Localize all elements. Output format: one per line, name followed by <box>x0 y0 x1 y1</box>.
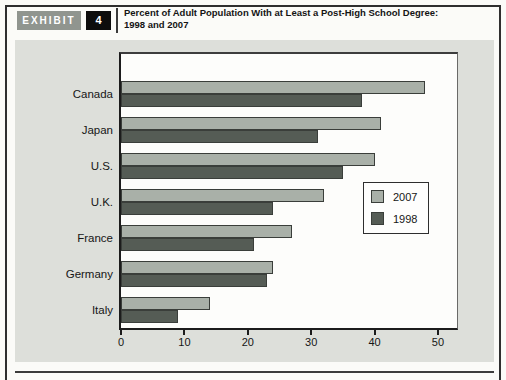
page-frame-right <box>499 5 501 380</box>
legend-swatch-1998 <box>371 212 384 225</box>
legend-label-2007: 2007 <box>393 190 417 204</box>
chart-panel: CanadaJapanU.S.U.K.FranceGermanyItaly 01… <box>15 40 494 362</box>
bar-1998-us <box>121 166 343 179</box>
x-tick-label-30: 30 <box>296 336 326 348</box>
bar-2007-italy <box>121 297 210 310</box>
category-label-italy: Italy <box>21 302 113 318</box>
bar-2007-japan <box>121 117 381 130</box>
legend: 2007 1998 <box>363 182 429 234</box>
page-frame-left <box>5 5 7 380</box>
x-tick-50 <box>437 330 439 335</box>
category-label-canada: Canada <box>21 86 113 102</box>
legend-swatch-2007 <box>371 190 384 203</box>
x-tick-label-20: 20 <box>233 336 263 348</box>
exhibit-number-badge: 4 <box>86 11 111 30</box>
x-tick-label-0: 0 <box>106 336 136 348</box>
category-label-france: France <box>21 230 113 246</box>
x-tick-40 <box>374 330 376 335</box>
bar-2007-us <box>121 153 375 166</box>
exhibit-badge: EXHIBIT <box>17 11 81 30</box>
legend-label-1998: 1998 <box>393 212 417 226</box>
chart-title-line2: 1998 and 2007 <box>124 19 496 31</box>
category-label-uk: U.K. <box>21 194 113 210</box>
bar-2007-canada <box>121 81 425 94</box>
x-tick-label-40: 40 <box>360 336 390 348</box>
chart-title-line1: Percent of Adult Population With at Leas… <box>124 7 496 19</box>
x-tick-0 <box>120 330 122 335</box>
x-tick-30 <box>310 330 312 335</box>
x-tick-label-10: 10 <box>169 336 199 348</box>
bar-1998-italy <box>121 310 178 323</box>
bar-1998-uk <box>121 202 273 215</box>
bar-1998-france <box>121 238 254 251</box>
bar-2007-germany <box>121 261 273 274</box>
chart-title: Percent of Adult Population With at Leas… <box>124 7 496 30</box>
bar-2007-uk <box>121 189 324 202</box>
category-label-japan: Japan <box>21 122 113 138</box>
x-tick-10 <box>183 330 185 335</box>
bar-1998-japan <box>121 130 318 143</box>
category-label-us: U.S. <box>21 158 113 174</box>
caption-divider-rule <box>15 371 494 373</box>
x-tick-label-50: 50 <box>423 336 453 348</box>
header-divider <box>116 8 118 33</box>
category-label-germany: Germany <box>21 266 113 282</box>
bar-1998-germany <box>121 274 267 287</box>
x-tick-20 <box>247 330 249 335</box>
bar-2007-france <box>121 225 292 238</box>
bar-1998-canada <box>121 94 362 107</box>
exhibit-page: EXHIBIT 4 Percent of Adult Population Wi… <box>0 0 506 380</box>
